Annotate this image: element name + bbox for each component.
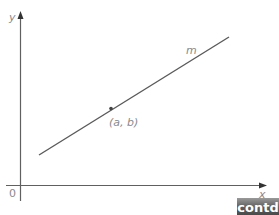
point-a-b — [109, 107, 113, 111]
coordinate-diagram: y x 0 m (a, b) contd — [0, 0, 279, 215]
line-m-label: m — [186, 44, 197, 57]
y-axis-arrow-icon — [18, 11, 24, 19]
graph-canvas: y x 0 m (a, b) — [0, 0, 279, 215]
y-axis-label: y — [8, 11, 16, 24]
line-m — [39, 37, 229, 155]
origin-label: 0 — [9, 187, 16, 200]
contd-button[interactable]: contd — [237, 198, 279, 215]
point-label: (a, b) — [109, 116, 138, 129]
